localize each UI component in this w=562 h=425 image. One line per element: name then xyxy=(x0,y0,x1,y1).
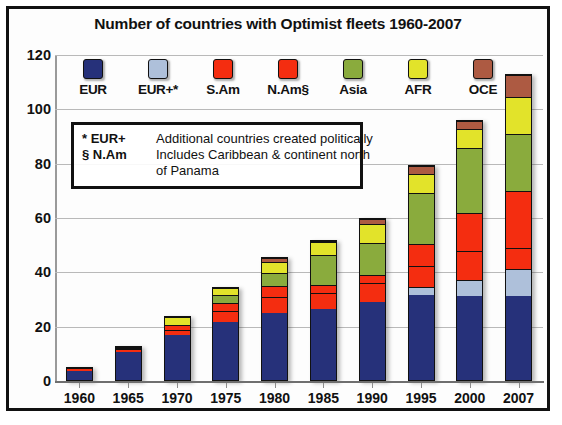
x-tick-label-1965: 1965 xyxy=(113,390,144,406)
bar-group-1980[interactable] xyxy=(261,55,288,381)
x-tick-mark-1995 xyxy=(421,383,422,388)
legend-item-sam[interactable]: S.Am xyxy=(197,59,249,97)
x-axis-labels: 1960196519701975198019851990199520002007 xyxy=(55,390,544,414)
legend-swatch-nam xyxy=(278,59,298,79)
bar-group-1965[interactable] xyxy=(115,55,142,381)
footnote-box: * EUR+ Additional countries created poli… xyxy=(71,122,363,189)
chart-title: Number of countries with Optimist fleets… xyxy=(9,15,547,33)
bar-stack-1975[interactable] xyxy=(212,287,239,381)
y-tick-label-100: 100 xyxy=(11,101,51,117)
bar-segment-2007-eur[interactable] xyxy=(506,269,531,296)
bar-segment-2007-oce[interactable] xyxy=(506,75,531,97)
y-tick-label-60: 60 xyxy=(11,210,51,226)
legend-item-eur[interactable]: EUR+* xyxy=(132,59,184,97)
legend-label-3: N.Am§ xyxy=(267,82,308,97)
bar-stack-1970[interactable] xyxy=(164,316,191,381)
legend-label-0: EUR xyxy=(79,82,107,97)
x-tick-mark-1965 xyxy=(128,383,129,388)
x-tick-mark-2000 xyxy=(470,383,471,388)
bar-segment-1995-eur[interactable] xyxy=(409,287,434,295)
bar-segment-1975-asia[interactable] xyxy=(213,295,238,303)
bar-group-1995[interactable] xyxy=(408,55,435,381)
bar-group-1990[interactable] xyxy=(359,55,386,381)
bar-segment-1975-eur[interactable] xyxy=(213,322,238,380)
x-tick-mark-1990 xyxy=(372,383,373,388)
bar-stack-1990[interactable] xyxy=(359,218,386,381)
legend-swatch-asia xyxy=(343,59,363,79)
bar-stack-2000[interactable] xyxy=(456,120,483,381)
bar-segment-1970-eur[interactable] xyxy=(165,335,190,380)
bar-segment-2007-sam[interactable] xyxy=(506,248,531,270)
x-tick-label-1985: 1985 xyxy=(308,390,339,406)
bar-segment-1980-afr[interactable] xyxy=(262,262,287,273)
bar-segment-1985-nam[interactable] xyxy=(311,285,336,293)
bar-segment-1985-asia[interactable] xyxy=(311,255,336,284)
bar-segment-1975-afr[interactable] xyxy=(213,288,238,295)
legend-item-afr[interactable]: AFR xyxy=(392,59,444,97)
legend-swatch-eur xyxy=(83,59,103,79)
legend-item-nam[interactable]: N.Am§ xyxy=(262,59,314,97)
bar-group-1975[interactable] xyxy=(212,55,239,381)
bar-stack-2007[interactable] xyxy=(505,74,532,381)
bar-segment-1970-afr[interactable] xyxy=(165,317,190,325)
bar-segment-1990-sam[interactable] xyxy=(360,283,385,302)
y-tick-label-0: 0 xyxy=(11,373,51,389)
bar-segment-1995-nam[interactable] xyxy=(409,244,434,266)
bar-segment-1960-eur[interactable] xyxy=(67,371,92,380)
x-tick-label-1990: 1990 xyxy=(357,390,388,406)
bar-segment-2000-eur[interactable] xyxy=(457,280,482,296)
bar-segment-1995-sam[interactable] xyxy=(409,266,434,288)
bar-group-1960[interactable] xyxy=(66,55,93,381)
bar-segment-1975-sam[interactable] xyxy=(213,311,238,322)
x-tick-label-1975: 1975 xyxy=(210,390,241,406)
bar-group-2007[interactable] xyxy=(505,55,532,381)
bar-stack-1985[interactable] xyxy=(310,240,337,381)
bar-segment-1965-eur[interactable] xyxy=(116,352,141,380)
bar-segment-1980-nam[interactable] xyxy=(262,286,287,297)
x-tick-mark-1980 xyxy=(275,383,276,388)
bar-segment-1995-asia[interactable] xyxy=(409,193,434,244)
bar-segment-1985-afr[interactable] xyxy=(311,242,336,255)
bar-segment-1985-eur[interactable] xyxy=(311,309,336,380)
chart-legend: EUREUR+*S.AmN.Am§AsiaAFROCE xyxy=(67,59,509,97)
bar-segment-1990-asia[interactable] xyxy=(360,243,385,275)
bar-segment-2000-eur[interactable] xyxy=(457,296,482,380)
bar-group-1985[interactable] xyxy=(310,55,337,381)
bar-segment-2007-nam[interactable] xyxy=(506,191,531,248)
bar-stack-1980[interactable] xyxy=(261,257,288,381)
bar-segment-1990-afr[interactable] xyxy=(360,224,385,243)
bar-segment-1985-sam[interactable] xyxy=(311,293,336,309)
bar-segment-2000-nam[interactable] xyxy=(457,213,482,251)
bar-segment-1995-eur[interactable] xyxy=(409,295,434,380)
x-tick-label-1980: 1980 xyxy=(259,390,290,406)
footnote-text-nam-cont: of Panama xyxy=(156,163,352,179)
bar-segment-2000-oce[interactable] xyxy=(457,121,482,129)
bar-segment-2000-afr[interactable] xyxy=(457,129,482,148)
bar-stack-1995[interactable] xyxy=(408,165,435,381)
bar-stack-1960[interactable] xyxy=(66,367,93,381)
x-axis-ticks xyxy=(55,383,544,389)
bar-segment-2007-afr[interactable] xyxy=(506,97,531,135)
legend-item-eur[interactable]: EUR xyxy=(67,59,119,97)
x-tick-mark-1970 xyxy=(177,383,178,388)
legend-swatch-eurplus xyxy=(148,59,168,79)
bar-stack-1965[interactable] xyxy=(115,346,142,381)
bar-segment-1990-nam[interactable] xyxy=(360,275,385,283)
bar-segment-1995-afr[interactable] xyxy=(409,174,434,193)
bar-segment-1990-eur[interactable] xyxy=(360,302,385,380)
bar-segment-1995-oce[interactable] xyxy=(409,166,434,174)
bar-segment-2007-eur[interactable] xyxy=(506,296,531,380)
bar-segment-2007-asia[interactable] xyxy=(506,134,531,191)
bar-segment-1980-sam[interactable] xyxy=(262,297,287,313)
bar-group-1970[interactable] xyxy=(164,55,191,381)
bar-segment-2000-asia[interactable] xyxy=(457,148,482,213)
legend-item-asia[interactable]: Asia xyxy=(327,59,379,97)
bar-group-2000[interactable] xyxy=(456,55,483,381)
legend-item-oce[interactable]: OCE xyxy=(457,59,509,97)
bar-segment-1980-asia[interactable] xyxy=(262,273,287,286)
bar-segment-1980-eur[interactable] xyxy=(262,313,287,380)
bar-segment-1975-nam[interactable] xyxy=(213,303,238,311)
legend-swatch-oce xyxy=(473,59,493,79)
legend-label-5: AFR xyxy=(405,82,432,97)
bar-segment-2000-sam[interactable] xyxy=(457,251,482,281)
